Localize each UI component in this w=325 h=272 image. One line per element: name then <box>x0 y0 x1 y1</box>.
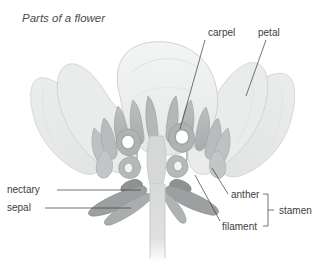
label-carpel: carpel <box>208 27 235 38</box>
stem-shape <box>150 184 165 262</box>
figure-title: Parts of a flower <box>22 12 106 24</box>
label-filament: filament <box>222 221 257 232</box>
label-nectary: nectary <box>7 184 40 195</box>
label-stamen: stamen <box>279 205 312 216</box>
stamen-bracket <box>263 194 274 226</box>
flower-diagram-figure: Parts of a flower carpel petal nectary s… <box>0 0 325 272</box>
label-petal: petal <box>258 27 280 38</box>
label-sepal: sepal <box>7 202 31 213</box>
flower-diagram-canvas: Parts of a flower carpel petal nectary s… <box>0 0 325 272</box>
label-anther: anther <box>231 189 260 200</box>
